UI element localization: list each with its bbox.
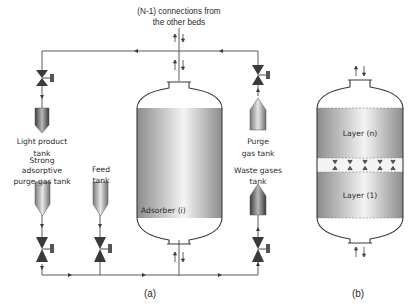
layered-vessel xyxy=(317,80,403,243)
valve-waste-gases[interactable] xyxy=(252,237,270,262)
valve-purge-gas[interactable] xyxy=(252,65,270,85)
label-feed-2: tank xyxy=(93,176,110,185)
valve-light-product[interactable] xyxy=(36,70,54,86)
label-waste-1: Waste gases xyxy=(234,166,282,175)
label-strong-3: purge gas tank xyxy=(13,177,71,186)
layer-1-label: Layer (1) xyxy=(343,191,377,200)
label-strong-2: adsorptive xyxy=(22,166,63,175)
label-waste-2: tank xyxy=(250,177,267,186)
adsorption-process-diagram: (N-1) connections from the other beds xyxy=(0,0,413,308)
top-header-pipe xyxy=(42,51,258,70)
label-light-product-1: Light product xyxy=(17,137,68,146)
caption-a: (a) xyxy=(144,288,156,299)
valve-strong-purge[interactable] xyxy=(36,237,54,262)
label-strong-1: Strong xyxy=(29,156,54,165)
label-purge-2: gas tank xyxy=(242,149,275,158)
header-line-2: the other beds xyxy=(153,18,205,27)
adsorber-vessel xyxy=(137,82,222,244)
label-feed-1: Feed xyxy=(92,165,110,174)
tank-strong-purge xyxy=(35,182,50,216)
valve-feed[interactable] xyxy=(94,237,112,262)
adsorber-label: Adsorber (i) xyxy=(141,206,186,215)
tank-light-product xyxy=(35,108,49,133)
tank-waste-gases xyxy=(250,184,266,215)
bottom-header-pipe xyxy=(42,262,258,275)
tank-purge-gas xyxy=(250,98,266,130)
label-purge-1: Purge xyxy=(247,137,269,146)
tank-feed xyxy=(93,182,108,216)
header-line-1: (N-1) connections from xyxy=(137,7,220,16)
caption-b: (b) xyxy=(352,288,364,299)
layer-n-label: Layer (n) xyxy=(343,129,377,138)
